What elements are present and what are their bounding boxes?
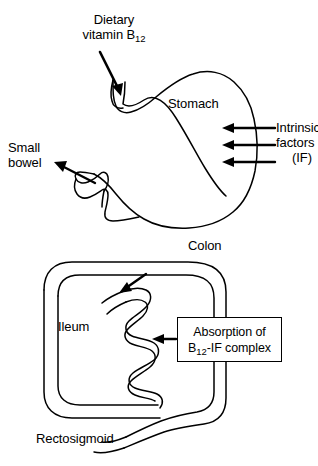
small-bowel-to-antrum: [102, 191, 104, 207]
rectosigmoid-outer: [94, 448, 124, 453]
intrinsic-factor-arrows: [230, 128, 275, 162]
dietary-vitamin-b12-label: Dietaryvitamin B12: [56, 12, 172, 42]
dietary-b12-arrow: [100, 52, 118, 88]
intrinsic-factor-arrowhead-3: [222, 157, 234, 167]
absorption-callout-box: Absorption of B12-IF complex: [177, 317, 282, 362]
colon-outer-wall-left: [44, 290, 160, 418]
ileum-entry-arrowhead: [119, 282, 132, 293]
b12-absorption-diagram: Dietaryvitamin B12 Stomach Intrinsicfact…: [0, 0, 318, 466]
b12-subscript-callout: 12: [196, 346, 206, 357]
stomach-label: Stomach: [168, 96, 219, 111]
intrinsic-factor-arrowhead-2: [222, 140, 234, 150]
intrinsic-factors-abbrev: (IF): [276, 150, 318, 165]
ileum-entry: [102, 291, 124, 303]
intrinsic-factors-label: Intrinsicfactors(IF): [276, 120, 318, 165]
small-bowel-arrow: [62, 166, 95, 183]
diagram-line-art: [0, 0, 318, 466]
ileum-loop-inner: [125, 300, 155, 401]
intrinsic-factor-arrowhead-1: [222, 123, 234, 133]
ileum-entry-inner: [107, 302, 126, 314]
absorption-callout-line1: Absorption of: [193, 324, 265, 340]
absorption-callout-line2: B12-IF complex: [188, 340, 271, 356]
rectosigmoid-label: Rectosigmoid: [36, 431, 114, 446]
small-bowel-label: Smallbowel: [8, 140, 41, 170]
ileum-label: Ileum: [58, 319, 89, 334]
colon-label: Colon: [188, 238, 221, 253]
b12-subscript: 12: [135, 33, 145, 44]
